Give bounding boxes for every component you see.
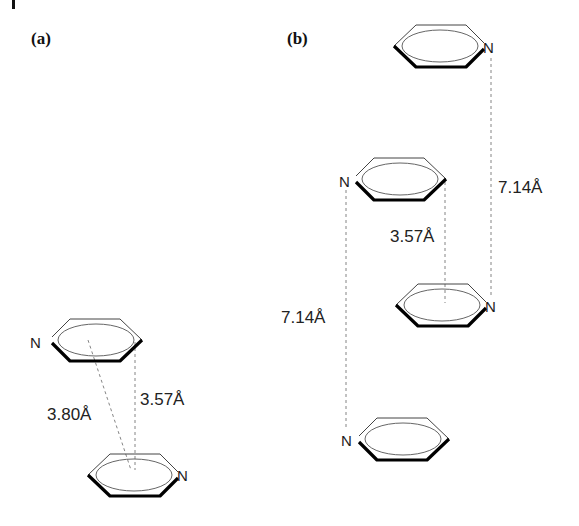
pyridine-ring-a-bottom [88,454,178,496]
panel-a-label: (a) [31,29,51,48]
nitrogen-label: N [30,334,41,351]
pyridine-ring-b-top [394,25,484,67]
pyridine-ring-b-bottom [359,418,449,460]
nitrogen-label: N [177,467,188,484]
nitrogen-label: N [485,298,496,315]
pyridine-ring-b-upper-left [356,158,446,200]
pyridine-ring-b-lower-right [396,284,486,326]
distance-label-3.57: 3.57Å [140,390,185,409]
panel-b: (b) N N N N 7.14Å 3.57Å 7.14Å [281,25,543,460]
distance-label-3.57: 3.57Å [390,227,435,246]
pyridine-ring-a-top [52,319,142,361]
distance-label-3.80: 3.80Å [47,405,92,424]
corner-mark [12,0,15,9]
pyridine-stacking-diagram: (a) N N 3.80Å 3.57Å (b) N N [0,0,579,526]
nitrogen-label: N [339,173,350,190]
panel-a: (a) N N 3.80Å 3.57Å [30,29,188,496]
distance-label-left-7.14: 7.14Å [281,308,326,327]
nitrogen-label: N [483,39,494,56]
distance-label-right-7.14: 7.14Å [498,178,543,197]
nitrogen-label: N [341,432,352,449]
panel-b-label: (b) [287,29,308,48]
